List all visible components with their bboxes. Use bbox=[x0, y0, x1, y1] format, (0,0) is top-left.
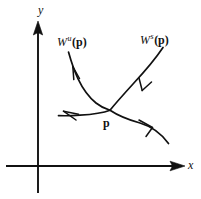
unstable-manifold-upper-branch bbox=[69, 52, 111, 110]
unstable-manifold-label: Wu(p) bbox=[57, 35, 87, 48]
x-axis-arrowhead bbox=[170, 161, 185, 171]
stable-manifold-upper-branch bbox=[110, 48, 163, 111]
stable-manifold-lower-branch bbox=[110, 110, 169, 143]
unstable-label-superscript: u bbox=[68, 34, 72, 43]
saddle-point-phase-portrait: y x Wu(p) Ws(p) p bbox=[0, 0, 201, 199]
unstable-manifold-curve bbox=[59, 52, 111, 120]
stable-manifold-curve bbox=[110, 48, 169, 144]
figure-canvas bbox=[0, 0, 201, 199]
x-axis-label: x bbox=[188, 159, 193, 171]
unstable-label-point: (p) bbox=[72, 35, 87, 49]
unstable-label-w: W bbox=[57, 35, 67, 49]
stable-label-w: W bbox=[140, 33, 150, 47]
stable-label-point: (p) bbox=[154, 33, 169, 47]
y-axis-label: y bbox=[38, 4, 43, 16]
y-axis-arrowhead bbox=[33, 21, 42, 35]
stable-manifold-label: Ws(p) bbox=[140, 33, 169, 46]
stable-upper-arrowhead bbox=[139, 78, 152, 91]
saddle-point-label: p bbox=[103, 117, 110, 129]
unstable-upper-arrowhead bbox=[73, 67, 80, 80]
